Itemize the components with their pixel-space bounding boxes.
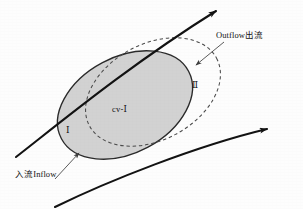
inflow-leader-arrow (55, 153, 79, 179)
control-volume-figure: Outflow出流 入流Inflow cv-Ⅰ Ⅰ Ⅱ (0, 0, 303, 209)
inflow-label: 入流Inflow (15, 170, 56, 179)
region-two-label: Ⅱ (192, 81, 198, 90)
outflow-leader-arrow (196, 42, 224, 65)
outflow-label: Outflow出流 (216, 31, 263, 40)
control-volume-label: cv-Ⅰ (112, 105, 127, 114)
region-one-label: Ⅰ (66, 126, 70, 135)
